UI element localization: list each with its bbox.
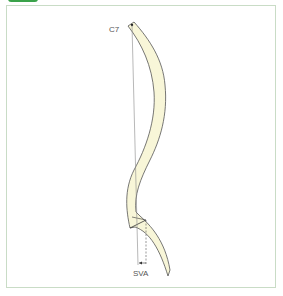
sva-label: SVA <box>133 269 149 278</box>
spine-curve <box>127 22 170 276</box>
plumb-line <box>132 25 138 265</box>
c7-label: C7 <box>109 25 120 34</box>
spine-diagram: C7 SVA <box>0 0 283 296</box>
